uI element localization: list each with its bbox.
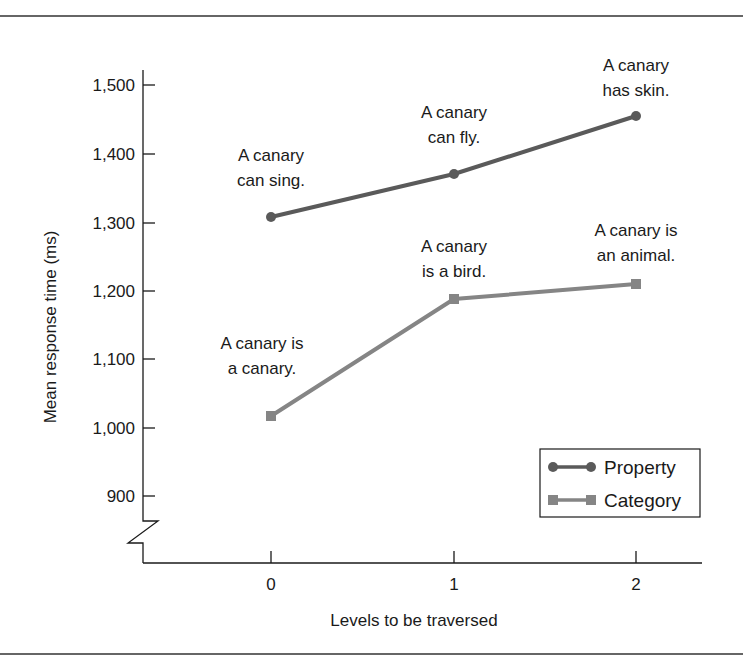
legend-label-property: Property xyxy=(604,457,676,478)
annotation-property-2-line2: has skin. xyxy=(602,81,669,100)
y-tick-label: 1,100 xyxy=(92,350,135,369)
property-point xyxy=(449,169,459,179)
annotation-property-2-line1: A canary xyxy=(603,56,670,75)
y-tick-label: 1,300 xyxy=(92,214,135,233)
property-point xyxy=(266,212,276,222)
x-tick-label: 2 xyxy=(631,575,640,594)
annotation-category-2-line1: A canary is xyxy=(594,221,677,240)
legend-label-category: Category xyxy=(604,490,682,511)
x-ticks xyxy=(271,551,636,563)
chart-canvas: 1,500 1,400 1,300 1,200 1,100 1,000 900 … xyxy=(0,0,743,672)
category-point xyxy=(266,411,276,421)
annotations: A canary can sing. A canary can fly. A c… xyxy=(220,56,677,378)
y-tick-labels: 1,500 1,400 1,300 1,200 1,100 1,000 900 xyxy=(92,76,135,506)
y-tick-label: 1,500 xyxy=(92,76,135,95)
y-tick-label: 1,000 xyxy=(92,419,135,438)
circle-marker-icon xyxy=(548,462,558,472)
property-point xyxy=(631,111,641,121)
square-marker-icon xyxy=(586,495,596,505)
x-tick-label: 1 xyxy=(449,575,458,594)
x-tick-labels: 0 1 2 xyxy=(266,575,640,594)
annotation-category-0-line1: A canary is xyxy=(220,334,303,353)
annotation-property-0-line2: can sing. xyxy=(237,171,305,190)
y-tick-label: 1,200 xyxy=(92,282,135,301)
annotation-property-1-line1: A canary xyxy=(421,103,488,122)
category-point xyxy=(631,279,641,289)
y-ticks xyxy=(143,85,155,496)
x-axis-title: Levels to be traversed xyxy=(330,611,497,630)
legend: Property Category xyxy=(540,449,700,517)
square-marker-icon xyxy=(548,495,558,505)
y-tick-label: 1,400 xyxy=(92,145,135,164)
annotation-property-0-line1: A canary xyxy=(238,146,305,165)
annotation-category-1-line1: A canary xyxy=(421,237,488,256)
annotation-category-1-line2: is a bird. xyxy=(422,262,486,281)
series-category xyxy=(266,279,641,421)
annotation-category-2-line2: an animal. xyxy=(597,246,675,265)
y-axis-title: Mean response time (ms) xyxy=(41,231,60,424)
circle-marker-icon xyxy=(586,462,596,472)
y-tick-label: 900 xyxy=(107,487,135,506)
x-tick-label: 0 xyxy=(266,575,275,594)
annotation-category-0-line2: a canary. xyxy=(228,359,297,378)
annotation-property-1-line2: can fly. xyxy=(428,128,481,147)
category-point xyxy=(449,294,459,304)
